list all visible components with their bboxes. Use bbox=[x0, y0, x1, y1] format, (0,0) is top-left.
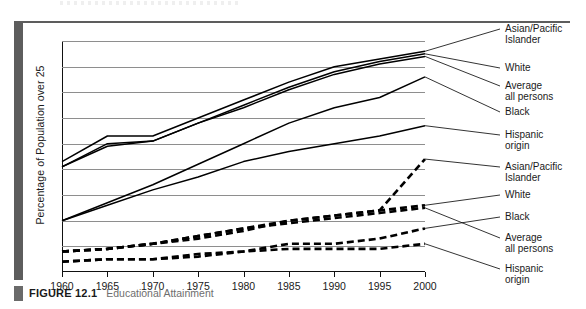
legend-leader-line bbox=[425, 244, 500, 269]
legend-label-dashed-average-all-persons: Average all persons bbox=[505, 233, 553, 254]
legend-leader-line bbox=[425, 77, 500, 112]
legend-label-dashed-asian-pacific-islander: Asian/Pacific Islander bbox=[505, 162, 562, 183]
figure-caption: FIGURE 12.1Educational Attainment bbox=[29, 287, 214, 299]
figure-number: FIGURE 12.1 bbox=[29, 287, 97, 299]
legend-label-solid-hispanic-origin: Hispanic origin bbox=[505, 130, 543, 151]
legend-leader-line bbox=[425, 195, 500, 205]
legend-leader-line bbox=[425, 29, 500, 51]
legend-label-solid-white: White bbox=[505, 63, 531, 74]
legend-label-solid-asian-pacific-islander: Asian/Pacific Islander bbox=[505, 24, 562, 45]
legend-leader-line bbox=[425, 126, 500, 135]
legend-label-solid-black: Black bbox=[505, 107, 529, 118]
figure-title: Educational Attainment bbox=[106, 287, 213, 299]
legend-label-solid-average-all-persons: Average all persons bbox=[505, 81, 553, 102]
legend-label-dashed-black: Black bbox=[505, 212, 529, 223]
legend-leader-line bbox=[425, 208, 500, 238]
legend-label-dashed-hispanic-origin: Hispanic origin bbox=[505, 264, 543, 285]
legend-label-dashed-white: White bbox=[505, 190, 531, 201]
legend-leader-line bbox=[425, 159, 500, 167]
figure-page: Percentage of Population over 25 0102030… bbox=[0, 0, 586, 309]
legend-leader-lines bbox=[0, 0, 586, 309]
